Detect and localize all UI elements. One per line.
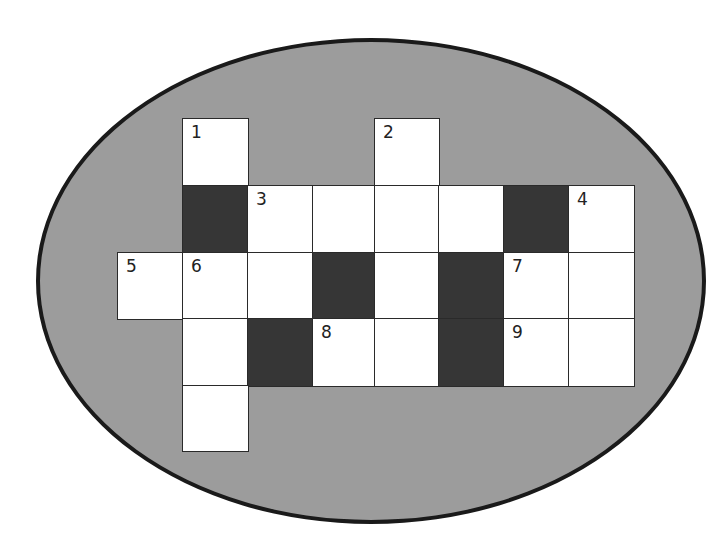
crossword-cell-r3c1[interactable] bbox=[182, 318, 249, 387]
clue-number: 9 bbox=[512, 322, 523, 342]
crossword-cell-3[interactable]: 3 bbox=[247, 185, 314, 254]
crossword-cell-6[interactable]: 6 bbox=[182, 252, 249, 320]
crossword-cell-r3c4[interactable] bbox=[374, 318, 440, 387]
crossword-cell-r4c1[interactable] bbox=[182, 385, 249, 452]
clue-number: 4 bbox=[577, 189, 588, 209]
black-cell bbox=[182, 185, 249, 254]
crossword-cell-r2c4[interactable] bbox=[374, 252, 440, 320]
black-cell bbox=[438, 252, 505, 320]
crossword-cell-1[interactable]: 1 bbox=[182, 118, 249, 187]
crossword-cell-r3c7[interactable] bbox=[568, 318, 635, 387]
clue-number: 8 bbox=[321, 322, 332, 342]
crossword-cell-r1c4[interactable] bbox=[374, 185, 440, 254]
black-cell bbox=[247, 318, 314, 387]
clue-number: 3 bbox=[256, 189, 267, 209]
clue-number: 7 bbox=[512, 256, 523, 276]
clue-number: 5 bbox=[126, 256, 137, 276]
black-cell bbox=[312, 252, 376, 320]
crossword-cell-r2c7[interactable] bbox=[568, 252, 635, 320]
crossword-cell-r2c2[interactable] bbox=[247, 252, 314, 320]
crossword-cell-4[interactable]: 4 bbox=[568, 185, 635, 254]
crossword-grid: 123456789 bbox=[0, 0, 728, 553]
crossword-cell-7[interactable]: 7 bbox=[503, 252, 570, 320]
black-cell bbox=[503, 185, 570, 254]
crossword-cell-r1c3[interactable] bbox=[312, 185, 376, 254]
clue-number: 6 bbox=[191, 256, 202, 276]
crossword-cell-2[interactable]: 2 bbox=[374, 118, 440, 187]
crossword-cell-5[interactable]: 5 bbox=[117, 252, 184, 320]
clue-number: 1 bbox=[191, 122, 202, 142]
crossword-cell-8[interactable]: 8 bbox=[312, 318, 376, 387]
crossword-cell-9[interactable]: 9 bbox=[503, 318, 570, 387]
clue-number: 2 bbox=[383, 122, 394, 142]
black-cell bbox=[438, 318, 505, 387]
crossword-cell-r1c5[interactable] bbox=[438, 185, 505, 254]
